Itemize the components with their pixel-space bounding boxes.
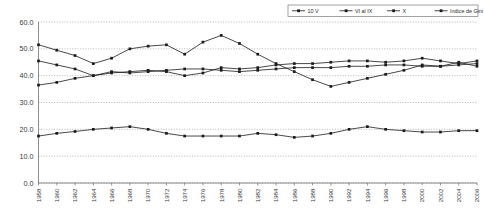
series-data-point xyxy=(238,135,241,138)
x-axis-tick-label: 2000 xyxy=(418,188,425,202)
y-axis-tick-label: 20.0 xyxy=(20,125,34,134)
series-data-point xyxy=(275,133,278,136)
x-axis-tick-label: 1966 xyxy=(108,188,115,202)
series-data-point xyxy=(311,62,314,65)
series-data-point xyxy=(37,60,40,63)
series-data-point xyxy=(457,64,460,67)
series-data-point xyxy=(421,131,424,134)
series-data-point xyxy=(165,132,168,135)
series-data-point xyxy=(110,70,113,73)
x-axis-tick-label: 1958 xyxy=(35,188,42,202)
x-axis-tick-label: 1982 xyxy=(254,188,261,202)
x-axis-tick-label: 1994 xyxy=(364,188,371,202)
series-data-point xyxy=(476,60,479,63)
series-data-point xyxy=(421,65,424,68)
series-data-point xyxy=(403,64,406,67)
gridlines-group xyxy=(39,22,478,183)
x-axis-tick-label: 1996 xyxy=(382,188,389,202)
series-data-point xyxy=(439,131,442,134)
series-data-point xyxy=(202,72,205,75)
series-data-point xyxy=(220,135,223,138)
y-axis-tick-label: 10.0 xyxy=(20,152,34,161)
chart-container: 60.050.040.030.020.010.00.01958196019621… xyxy=(0,0,484,222)
series-2 xyxy=(37,57,478,77)
y-axis-tick-label: 40.0 xyxy=(20,71,34,80)
series-data-point xyxy=(202,68,205,71)
series-data-point xyxy=(238,42,241,45)
legend-label: VI al IX xyxy=(355,8,373,14)
series-data-point xyxy=(220,34,223,37)
x-axis-labels: 1958196019621964196619681970197219741976… xyxy=(35,183,481,202)
x-axis-tick-label: 1990 xyxy=(327,188,334,202)
series-data-point xyxy=(238,68,241,71)
series-data-point xyxy=(293,66,296,69)
series-data-point xyxy=(55,64,58,67)
series-data-point xyxy=(439,65,442,68)
series-data-point xyxy=(329,85,332,88)
series-data-point xyxy=(275,68,278,71)
legend-label: 10 V xyxy=(308,8,319,14)
series-data-point xyxy=(275,64,278,67)
series-data-point xyxy=(55,49,58,52)
series-data-point xyxy=(256,132,259,135)
series-data-point xyxy=(129,47,132,50)
series-data-point xyxy=(384,64,387,67)
series-data-point xyxy=(238,70,241,73)
x-axis-tick-label: 1978 xyxy=(218,188,225,202)
series-data-point xyxy=(384,61,387,64)
series-data-point xyxy=(311,78,314,81)
legend-marker-swatch xyxy=(297,9,300,12)
x-axis-tick-label: 2004 xyxy=(455,188,462,202)
series-data-point xyxy=(457,129,460,132)
series-data-point xyxy=(366,125,369,128)
x-axis-tick-label: 2006 xyxy=(473,188,480,202)
series-data-point xyxy=(476,62,479,65)
series-data-point xyxy=(183,68,186,71)
series-data-point xyxy=(348,65,351,68)
legend: 10 VVI al IXXIndice de Gini xyxy=(288,5,483,17)
series-data-point xyxy=(220,66,223,69)
x-axis-tick-label: 1988 xyxy=(309,188,316,202)
x-axis-tick-label: 1962 xyxy=(71,188,78,202)
series-data-point xyxy=(74,54,77,57)
x-axis-tick-label: 1980 xyxy=(236,188,243,202)
series-data-point xyxy=(366,65,369,68)
legend-marker-swatch xyxy=(440,9,443,12)
y-axis-tick-label: 50.0 xyxy=(20,44,34,53)
series-data-point xyxy=(37,135,40,138)
series-data-point xyxy=(37,43,40,46)
series-data-point xyxy=(348,60,351,63)
series-data-point xyxy=(129,72,132,75)
series-data-point xyxy=(74,77,77,80)
x-axis-tick-label: 2002 xyxy=(437,188,444,202)
series-data-point xyxy=(421,57,424,60)
legend-label: X xyxy=(403,8,407,14)
series-data-point xyxy=(129,125,132,128)
y-axis-tick-label: 0.0 xyxy=(24,179,34,188)
x-axis-tick-label: 1992 xyxy=(345,188,352,202)
series-data-point xyxy=(366,77,369,80)
series-data-point xyxy=(256,53,259,56)
series-data-point xyxy=(384,73,387,76)
series-data-point xyxy=(55,81,58,84)
series-data-point xyxy=(293,136,296,139)
series-data-point xyxy=(147,70,150,73)
series-data-point xyxy=(183,74,186,77)
series-group xyxy=(37,34,478,139)
x-axis-tick-label: 1984 xyxy=(272,188,279,202)
x-axis-tick-label: 1972 xyxy=(163,188,170,202)
series-data-point xyxy=(476,129,479,132)
series-data-point xyxy=(256,69,259,72)
series-data-point xyxy=(92,128,95,131)
series-data-point xyxy=(74,68,77,71)
series-data-point xyxy=(329,66,332,69)
series-data-point xyxy=(92,74,95,77)
series-data-point xyxy=(329,61,332,64)
y-axis-tick-label: 30.0 xyxy=(20,98,34,107)
legend-label: Indice de Gini xyxy=(450,8,483,14)
series-data-point xyxy=(110,57,113,60)
x-axis-tick-label: 1970 xyxy=(144,188,151,202)
series-4 xyxy=(37,125,478,138)
series-data-point xyxy=(366,60,369,63)
series-data-point xyxy=(147,45,150,48)
